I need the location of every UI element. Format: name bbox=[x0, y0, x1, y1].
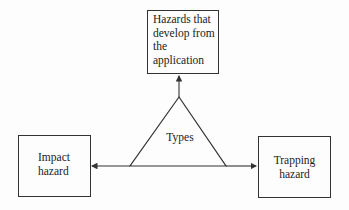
node-label-line: the bbox=[153, 40, 219, 54]
types-of-hazards-diagram: Hazards that develop from the applicatio… bbox=[0, 0, 349, 210]
node-label-line: application bbox=[153, 54, 219, 68]
node-label-line: hazard bbox=[38, 165, 78, 179]
node-label-line: develop from bbox=[153, 27, 219, 41]
center-label: Types bbox=[150, 131, 210, 145]
node-label-line: Hazards that bbox=[153, 13, 219, 27]
node-label-line: Impact bbox=[38, 151, 78, 165]
node-label-line: Trapping bbox=[258, 154, 331, 168]
node-label-line: hazard bbox=[258, 168, 331, 182]
node-label-right: Trapping hazard bbox=[258, 154, 331, 181]
node-label-left: Impact hazard bbox=[38, 151, 78, 178]
node-label-top: Hazards that develop from the applicatio… bbox=[153, 13, 219, 67]
